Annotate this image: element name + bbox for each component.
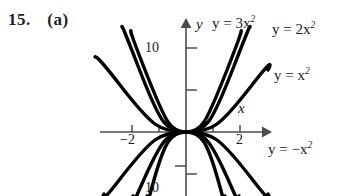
curve-label-negx2-exponent: 2 [307,140,312,150]
y-tick-label-10: 10 [145,40,159,56]
curve-label-2x2: y = 2x2 [272,20,315,38]
curve-x2-right [186,65,270,132]
curve-label-3x2-text: y = 3x [212,15,250,31]
curve-label-negx2-text: y = −x [268,141,307,157]
curve-label-3x2-exponent: 2 [250,14,255,24]
y-tick-label-neg10: 10 [145,180,159,196]
curve-label-x2-text: y = x [274,67,305,83]
curve-negx2-right [186,132,270,196]
x-axis-arrow [262,127,272,138]
x-tick-label-2: 2 [236,132,243,148]
y-axis-arrow [181,18,192,28]
curve-label-3x2: y = 3x2 [212,14,255,32]
figure-container: 15. (a) [0,0,347,196]
curve-label-2x2-text: y = 2x [272,21,310,37]
curve-negx2-left [102,132,186,196]
curve-label-2x2-exponent: 2 [310,20,315,30]
curve-label-negx2: y = −x2 [268,140,312,158]
curve-label-x2-exponent: 2 [305,66,310,76]
x-tick-label-neg2: −2 [120,132,135,148]
curve-label-x2: y = x2 [274,66,310,84]
x-axis-label: x [238,100,245,117]
y-axis-label: y [196,16,203,33]
curve-3x2-right [186,31,241,132]
